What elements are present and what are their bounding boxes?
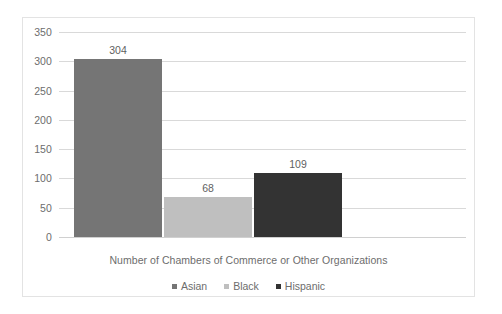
bar-hispanic: 109	[254, 173, 342, 237]
y-axis-tick-label: 350	[34, 26, 52, 38]
legend-square-icon	[224, 284, 229, 289]
y-axis-tick-label: 200	[34, 114, 52, 126]
legend-label: Hispanic	[285, 280, 325, 292]
bar-rect	[254, 173, 342, 237]
y-axis-tick-label: 100	[34, 172, 52, 184]
legend-square-icon	[276, 284, 281, 289]
legend-label: Asian	[181, 280, 207, 292]
bar-value-label: 109	[254, 158, 342, 170]
bar-black: 68	[164, 197, 252, 237]
y-axis-tick-label: 300	[34, 55, 52, 67]
gridline: 0	[59, 237, 466, 238]
legend-square-icon	[172, 284, 177, 289]
bar-value-label: 68	[164, 182, 252, 194]
legend-item-asian[interactable]: Asian	[172, 280, 207, 292]
plot-area: 050100150200250300350 30468109	[59, 32, 466, 237]
bar-rect	[164, 197, 252, 237]
bar-value-label: 304	[74, 44, 162, 56]
y-axis-tick-label: 150	[34, 143, 52, 155]
y-axis-tick-label: 250	[34, 85, 52, 97]
bar-series: 30468109	[59, 32, 466, 237]
bar-asian: 304	[74, 59, 162, 237]
legend-item-black[interactable]: Black	[224, 280, 259, 292]
legend-item-hispanic[interactable]: Hispanic	[276, 280, 325, 292]
chart-legend: AsianBlackHispanic	[23, 280, 474, 292]
y-axis-tick-label: 50	[40, 202, 52, 214]
bar-rect	[74, 59, 162, 237]
chart-container: 050100150200250300350 30468109 Number of…	[22, 17, 475, 297]
y-axis-tick-label: 0	[46, 231, 52, 243]
x-axis-title: Number of Chambers of Commerce or Other …	[23, 254, 474, 266]
legend-label: Black	[233, 280, 259, 292]
